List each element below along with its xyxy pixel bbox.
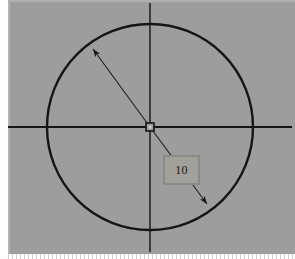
dimension-value-text[interactable]: 10	[175, 164, 188, 176]
cad-screenshot: 10	[0, 0, 295, 259]
dimension-value-box[interactable]: 10	[163, 155, 200, 185]
geometry-layer	[0, 0, 295, 259]
bottom-ruler	[8, 254, 295, 259]
center-point-marker[interactable]	[146, 123, 154, 131]
dimension-line[interactable]	[93, 49, 150, 127]
